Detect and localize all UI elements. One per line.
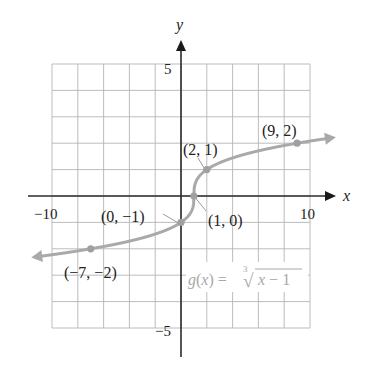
data-point [177, 219, 184, 226]
point-label-2-1: (2, 1) [183, 141, 218, 159]
data-point [190, 192, 197, 199]
y-tick-label-5: 5 [164, 61, 172, 77]
radical-sign: √ [243, 270, 254, 291]
point-label-1-0: (1, 0) [208, 212, 243, 230]
x-tick-label-neg10: −10 [34, 206, 57, 222]
data-point [294, 140, 301, 147]
y-axis-arrow-icon [176, 40, 186, 51]
point-label-0-neg1: (0, −1) [101, 208, 145, 226]
data-point [203, 166, 210, 173]
curve-left-arrow-icon [31, 250, 43, 262]
data-point [87, 245, 94, 252]
point-label-9-2: (9, 2) [262, 122, 297, 140]
y-axis-label: y [174, 16, 184, 34]
svg-text:g(x) =: g(x) = [188, 271, 227, 289]
point-label-neg7-neg2: (−7, −2) [64, 264, 117, 282]
y-tick-label-neg5: −5 [155, 323, 171, 339]
x-axis-arrow-icon [325, 191, 336, 201]
svg-text:x − 1: x − 1 [257, 271, 290, 288]
x-tick-label-10: 10 [300, 206, 315, 222]
x-axis-label: x [342, 187, 350, 204]
cube-root-graph: x y −10 10 5 −5 (−7, −2) (0, −1) (1, 0) … [0, 0, 367, 381]
curve-right-arrow-icon [324, 133, 336, 145]
